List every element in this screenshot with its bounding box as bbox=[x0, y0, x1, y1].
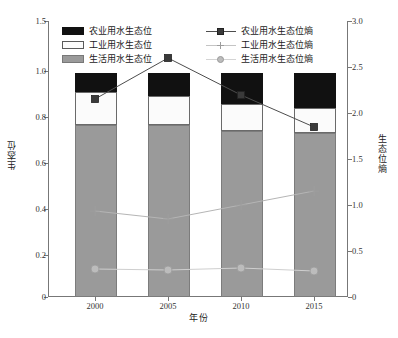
y-tick-label-left: 0 bbox=[42, 293, 46, 302]
y-tick-label-right: 0.5 bbox=[352, 247, 363, 256]
legend-label-industry: 工业用水生态位 bbox=[89, 41, 152, 50]
bar-segment-agriculture bbox=[221, 73, 263, 104]
legend-line-series: 农业用水生态位熵 工业用水生态位熵 生活用水生态位熵 bbox=[206, 24, 313, 66]
y-tick-label-right: 2.0 bbox=[352, 109, 363, 118]
legend-item-agriculture-niche[interactable]: 农业用水生态位 bbox=[62, 24, 152, 38]
legend-item-industry-niche[interactable]: 工业用水生态位 bbox=[62, 38, 152, 52]
ecological-niche-chart: 1.5 1.0 0.8 0.6 0.4 0.2 0 3.0 2.5 2.0 1.… bbox=[0, 0, 398, 338]
bar-segment-domestic bbox=[294, 133, 336, 297]
y-tick-label-left: 0.4 bbox=[35, 205, 46, 214]
x-tick-label-2005: 2005 bbox=[143, 302, 193, 311]
legend-label-domestic-entropy: 生活用水生态位熵 bbox=[241, 55, 313, 64]
legend-bar-series: 农业用水生态位 工业用水生态位 生活用水生态位 bbox=[62, 24, 152, 66]
legend-label-agriculture: 农业用水生态位 bbox=[89, 27, 152, 36]
bar-group-2005 bbox=[148, 21, 190, 297]
bar-segment-industry bbox=[221, 104, 263, 131]
y-tick-label-left: 0.2 bbox=[35, 251, 46, 260]
y-tick-label-right: 1.5 bbox=[352, 155, 363, 164]
bar-segment-industry bbox=[294, 108, 336, 133]
bar-segment-agriculture bbox=[148, 73, 190, 96]
bar-segment-industry bbox=[148, 96, 190, 125]
legend-item-domestic-entropy[interactable]: 生活用水生态位熵 bbox=[206, 52, 313, 66]
y-tick-label-left: 1.5 bbox=[35, 17, 46, 26]
legend-label-agriculture-entropy: 农业用水生态位熵 bbox=[241, 27, 313, 36]
legend-line-domestic bbox=[206, 55, 236, 64]
legend-swatch-industry bbox=[62, 41, 84, 49]
y-tick-label-right: 3.0 bbox=[352, 17, 363, 26]
bar-segment-industry bbox=[75, 92, 117, 125]
y-tick-label-right: 1.0 bbox=[352, 201, 363, 210]
legend-swatch-domestic bbox=[62, 55, 84, 63]
legend-swatch-agriculture bbox=[62, 27, 84, 35]
x-axis-title: 年份 bbox=[0, 311, 398, 324]
y-axis-title-left: 生态位 bbox=[4, 140, 17, 170]
y-tick-label-right: 0 bbox=[352, 293, 356, 302]
legend-label-domestic: 生活用水生态位 bbox=[89, 55, 152, 64]
legend-label-industry-entropy: 工业用水生态位熵 bbox=[241, 41, 313, 50]
legend-item-industry-entropy[interactable]: 工业用水生态位熵 bbox=[206, 38, 313, 52]
x-tick-label-2000: 2000 bbox=[70, 302, 120, 311]
y-axis-title-right: 生态位熵 bbox=[376, 134, 389, 174]
bar-segment-agriculture bbox=[75, 73, 117, 92]
y-tick-label-left: 0.8 bbox=[35, 113, 46, 122]
legend-item-agriculture-entropy[interactable]: 农业用水生态位熵 bbox=[206, 24, 313, 38]
y-tick-label-left: 1.0 bbox=[35, 67, 46, 76]
bar-segment-domestic bbox=[221, 131, 263, 297]
bar-segment-agriculture bbox=[294, 73, 336, 108]
x-tick-label-2015: 2015 bbox=[289, 302, 339, 311]
y-tick-label-left: 0.6 bbox=[35, 159, 46, 168]
legend-line-industry bbox=[206, 41, 236, 50]
x-tick-label-2010: 2010 bbox=[216, 302, 266, 311]
bar-segment-domestic bbox=[75, 125, 117, 297]
bar-segment-domestic bbox=[148, 125, 190, 297]
y-tick-label-right: 2.5 bbox=[352, 63, 363, 72]
legend-line-agriculture bbox=[206, 27, 236, 36]
legend-item-domestic-niche[interactable]: 生活用水生态位 bbox=[62, 52, 152, 66]
